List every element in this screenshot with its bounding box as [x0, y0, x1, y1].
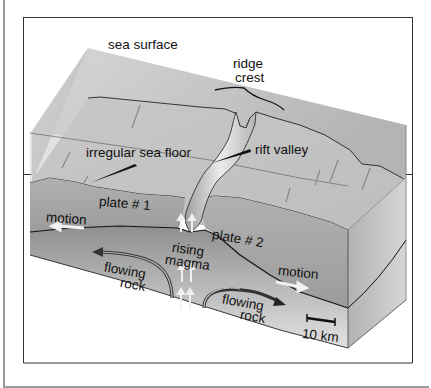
- label-flowing-rock-left-line2: rock: [119, 276, 146, 293]
- label-sea-surface: sea surface: [108, 38, 178, 51]
- mid-ocean-ridge-diagram: [0, 0, 431, 388]
- label-flowing-rock-right-line2: rock: [239, 308, 266, 325]
- label-ridge-crest-line1: ridge: [233, 57, 263, 70]
- label-motion-left: motion: [46, 211, 87, 227]
- label-irregular-sea-floor: irregular sea floor: [86, 146, 191, 159]
- label-rift-valley: rift valley: [255, 143, 308, 156]
- label-scale-bar: 10 km: [301, 327, 339, 344]
- label-motion-right: motion: [277, 264, 319, 281]
- label-ridge-crest-line2: crest: [235, 71, 264, 84]
